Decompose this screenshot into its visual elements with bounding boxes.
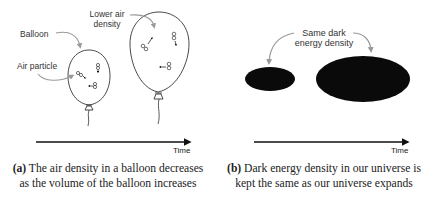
lower-air-density-label: Lower air density [87,9,127,29]
air-particle-pointer-arrow [38,74,72,80]
time-axis-label: Time [391,146,408,155]
air-particle-icon [96,63,99,72]
balloon-pointer-arrow [56,32,80,46]
time-axis-label: Time [173,146,190,155]
same-density-pointer-left [269,33,294,62]
panel-b-dark-energy: Same dark energy density Time (b) Dark e… [216,0,432,214]
air-particle-icon [172,32,176,45]
caption-b: (b) Dark energy density in our universe … [224,162,424,191]
large-universe-ellipse [316,56,410,102]
air-particle-icon [89,82,97,88]
air-particle-label: Air particle [17,61,57,71]
large-balloon [130,12,189,124]
caption-a: (a) The air density in a balloon decreas… [8,162,208,191]
small-universe-ellipse [245,67,295,91]
air-particle-icon [76,71,85,78]
lower-density-pointer-arrow [130,15,154,26]
small-balloon [68,50,110,126]
panel-a-balloon: Balloon Air particle Lower air density T… [0,0,216,214]
balloon-label: Balloon [20,29,48,39]
air-particle-icon [160,62,171,70]
same-dark-energy-density-label: Same dark energy density [292,28,356,48]
air-particle-icon [141,38,152,51]
